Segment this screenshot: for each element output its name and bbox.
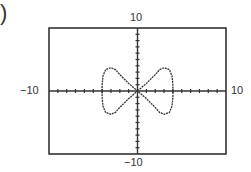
plot-area [0,0,251,172]
